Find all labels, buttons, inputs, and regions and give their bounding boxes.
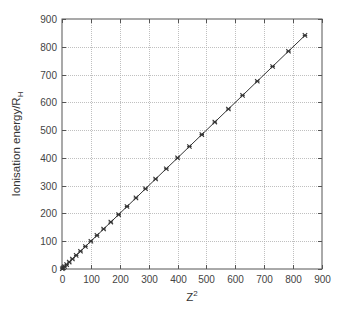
data-point-marker: [134, 196, 138, 200]
y-tick-label: 300: [40, 181, 57, 192]
data-point-marker: [74, 253, 78, 257]
data-point-marker: [83, 244, 87, 248]
data-point-marker: [240, 93, 244, 97]
data-point-marker: [255, 79, 259, 83]
data-point-marker: [101, 227, 105, 231]
y-tick-label: 700: [40, 70, 57, 81]
data-point-marker: [286, 49, 290, 53]
x-tick-label: 600: [227, 274, 244, 285]
data-point-marker: [125, 204, 129, 208]
data-point-marker: [175, 156, 179, 160]
data-point-marker: [213, 120, 217, 124]
data-point-marker: [303, 33, 307, 37]
x-tick-label: 100: [83, 274, 100, 285]
data-point-marker: [116, 212, 120, 216]
x-tick-label: 800: [285, 274, 302, 285]
x-axis-label: Z2: [186, 289, 198, 303]
data-series: [60, 33, 307, 271]
y-tick-label: 800: [40, 42, 57, 53]
x-tick-label: 400: [170, 274, 187, 285]
y-axis-label: Ionisation energy/RH: [10, 91, 25, 196]
x-tick-label: 0: [60, 274, 66, 285]
data-point-marker: [200, 132, 204, 136]
y-tick-label: 500: [40, 125, 57, 136]
x-tick-label: 200: [112, 274, 129, 285]
data-point-marker: [78, 249, 82, 253]
y-tick-label: 900: [40, 14, 57, 25]
x-tick-label: 900: [314, 274, 331, 285]
y-tick-label: 100: [40, 236, 57, 247]
data-point-marker: [143, 187, 147, 191]
x-tick-label: 500: [198, 274, 215, 285]
y-tick-label: 200: [40, 208, 57, 219]
y-tick-label: 600: [40, 97, 57, 108]
x-tick-label: 300: [141, 274, 158, 285]
x-tick-label: 700: [256, 274, 273, 285]
data-point-marker: [153, 177, 157, 181]
data-point-marker: [89, 239, 93, 243]
data-point-marker: [187, 144, 191, 148]
y-tick-label: 400: [40, 153, 57, 164]
data-point-marker: [226, 107, 230, 111]
data-point-marker: [95, 233, 99, 237]
chart: 0100200300400500600700800900010020030040…: [0, 0, 346, 314]
data-point-marker: [270, 64, 274, 68]
y-tick-label: 0: [51, 264, 57, 275]
data-point-marker: [164, 167, 168, 171]
data-point-marker: [109, 220, 113, 224]
